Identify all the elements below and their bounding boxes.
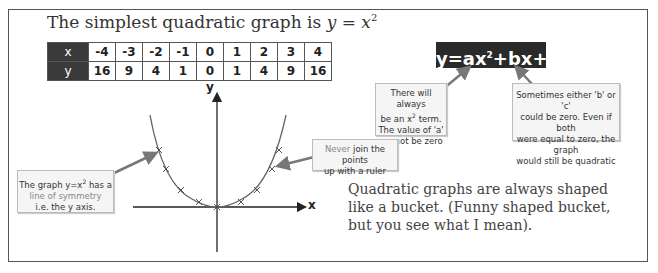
y-axis-label: y [206,80,214,94]
note-text: has a [86,180,112,190]
note-line: Never join the points [313,144,397,166]
note-line: could be zero. Even if both [513,112,619,134]
note-line: would still be quadratic [513,156,619,167]
arrow-bc [519,70,532,84]
note-text: be an x [380,114,412,124]
note-highlight: line of symmetry [18,191,113,202]
text-line: like a bucket. (Funny shaped bucket, [348,198,638,216]
note-line: The graph y=x2 has a [18,176,113,191]
bucket-description: Quadratic graphs are always shaped like … [348,180,638,234]
note-text: The graph y=x [19,180,82,190]
note-line: There will always [376,88,446,110]
note-ruler: Never join the points up with a ruler [312,139,398,171]
note-line: were equal to zero, the graph [513,134,619,156]
note-line: Sometimes either 'b' or 'c' [513,90,619,112]
text-line: but you see what I mean). [348,216,638,234]
note-text: term. [416,114,442,124]
parabola-curve [150,115,286,207]
arrow-ruler [282,157,314,165]
note-line: i.e. the y axis. [18,202,113,213]
note-line: The value of 'a' [376,125,446,136]
note-line: be an x2 term. [376,110,446,125]
note-highlight: Never [325,144,350,154]
note-a-term: There will always be an x2 term. The val… [375,83,447,136]
note-symmetry: The graph y=x2 has a line of symmetry i.… [17,170,114,213]
text-line: Quadratic graphs are always shaped [348,180,638,198]
note-line: up with a ruler [313,166,397,177]
arrow-symmetry [112,155,152,174]
x-axis-label: x [308,198,316,212]
note-b-c-zero: Sometimes either 'b' or 'c' could be zer… [512,83,620,141]
